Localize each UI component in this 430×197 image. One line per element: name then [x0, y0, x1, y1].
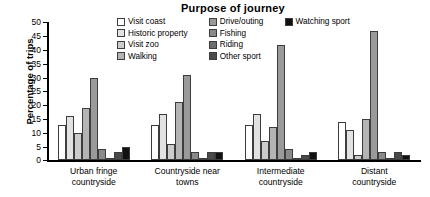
bar [346, 130, 354, 160]
bar [74, 133, 82, 161]
y-tick-label: 15 [32, 114, 41, 124]
bar [58, 125, 66, 161]
bar [207, 152, 215, 160]
y-tick-label: 45 [32, 31, 41, 41]
y-tick-label: 40 [32, 45, 41, 55]
y-tick-label: 5 [36, 142, 41, 152]
y-tick-label: 30 [32, 73, 41, 83]
x-axis-label: Countryside neartowns [141, 166, 235, 187]
y-tick-label: 0 [36, 155, 41, 165]
x-axis-label: Urban fringecountryside [47, 166, 141, 187]
bar [106, 158, 114, 161]
bar [183, 75, 191, 161]
bar [191, 152, 199, 160]
y-tick-label: 35 [32, 59, 41, 69]
bar [402, 155, 410, 161]
bar [354, 155, 362, 161]
bar [338, 122, 346, 161]
bar-groups [47, 22, 421, 160]
bar-group [47, 22, 141, 160]
bar [394, 152, 402, 160]
bar [362, 119, 370, 160]
bar [285, 149, 293, 160]
y-tick-label: 50 [32, 17, 41, 27]
y-tick-label: 10 [32, 128, 41, 138]
bar [269, 127, 277, 160]
bar [66, 116, 74, 160]
bar [199, 158, 207, 161]
bar [301, 155, 309, 161]
plot-area: 50454035302520151050 [47, 22, 421, 162]
bar [253, 114, 261, 161]
x-axis-label: Intermediatecountryside [234, 166, 328, 187]
bar [167, 144, 175, 161]
bar-group [328, 22, 422, 160]
bar [90, 78, 98, 161]
bar [293, 158, 301, 160]
y-tick-label: 25 [32, 86, 41, 96]
bar-group [234, 22, 328, 160]
bar [370, 31, 378, 161]
x-axis-line [47, 160, 421, 162]
bar [98, 149, 106, 160]
bar [151, 125, 159, 161]
bar [122, 147, 130, 161]
bar [159, 114, 167, 161]
bar [245, 125, 253, 161]
bar [386, 158, 394, 161]
bar [261, 141, 269, 160]
x-axis-label: Distantcountryside [328, 166, 422, 187]
bar [82, 108, 90, 160]
bar-group [141, 22, 235, 160]
bar [215, 152, 223, 160]
bar [114, 152, 122, 160]
x-axis-labels: Urban fringecountrysideCountryside neart… [47, 166, 421, 187]
bar [175, 102, 183, 160]
chart-title: Purpose of journey [118, 2, 348, 14]
bar [277, 45, 285, 161]
bar [309, 152, 317, 160]
chart-figure: Purpose of journey Percentage of trips V… [0, 0, 430, 197]
y-tick [43, 160, 47, 161]
bar [378, 152, 386, 160]
y-tick-label: 20 [32, 100, 41, 110]
